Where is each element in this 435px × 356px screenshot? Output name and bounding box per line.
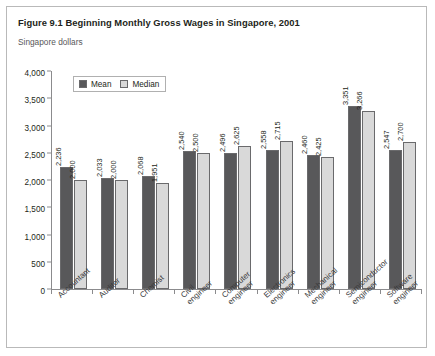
- bar-group: 2,0681,951: [140, 71, 173, 289]
- y-axis-tick-mark: [47, 207, 51, 208]
- x-axis-tick-mark: [380, 289, 381, 294]
- y-axis-tick-mark: [47, 261, 51, 262]
- y-axis-tick-label-text: 4,000: [25, 69, 46, 78]
- x-axis-tick-mark: [174, 289, 175, 294]
- bar-group: 2,0332,000: [99, 71, 132, 289]
- bar-mean: 2,558: [266, 150, 279, 289]
- bar-chart-plot-area: 05001,0001,5002,0002,5003,0003,5004,000 …: [51, 71, 421, 290]
- y-axis-tick-mark: [47, 125, 51, 126]
- bar-median: 2,700: [403, 142, 416, 289]
- bar-value-label: 2,033: [95, 159, 104, 178]
- bar-group: 3,3513,266: [346, 71, 379, 289]
- chart-legend: Mean Median: [73, 76, 166, 92]
- legend-item-mean: Mean: [79, 80, 111, 89]
- y-axis-tick-mark: [47, 98, 51, 99]
- bar-value-label: 2,460: [300, 135, 309, 154]
- page-title: Figure 9.1 Beginning Monthly Gross Wages…: [18, 17, 300, 28]
- figure-frame: Figure 9.1 Beginning Monthly Gross Wages…: [6, 6, 427, 348]
- bar-value-label: 2,625: [232, 126, 241, 145]
- y-axis-tick-label-text: 500: [31, 260, 45, 269]
- y-axis-tick-label-text: 3,500: [25, 96, 46, 105]
- y-axis-tick-mark: [47, 180, 51, 181]
- bar-mean: 2,236: [60, 167, 73, 289]
- bar-mean: 2,033: [101, 178, 114, 289]
- bar-mean: 3,351: [348, 106, 361, 289]
- bar-value-label: 3,351: [341, 87, 350, 106]
- axis-unit-label: Singapore dollars: [18, 37, 83, 47]
- x-axis-tick-mark: [133, 289, 134, 294]
- bar-group: 2,5582,715: [264, 71, 297, 289]
- y-axis-tick-label-text: 2,500: [25, 151, 46, 160]
- y-axis-line: [51, 71, 52, 290]
- x-axis-tick-mark: [339, 289, 340, 294]
- x-axis-tick-mark: [92, 289, 93, 294]
- bar-group: 2,4962,625: [222, 71, 255, 289]
- legend-item-median: Median: [120, 80, 159, 89]
- legend-label-median: Median: [132, 80, 159, 89]
- bar-value-label: 2,068: [136, 157, 145, 176]
- x-axis-tick-mark: [421, 289, 422, 294]
- bar-mean: 2,496: [224, 153, 237, 289]
- bar-value-label: 2,540: [177, 131, 186, 150]
- x-axis-tick-mark: [298, 289, 299, 294]
- x-axis-tick-mark: [215, 289, 216, 294]
- y-axis-tick-mark: [47, 152, 51, 153]
- y-axis-tick-label-text: 2,000: [25, 178, 46, 187]
- x-axis-tick-mark: [257, 289, 258, 294]
- bar-value-label: 2,496: [218, 133, 227, 152]
- bar-group: 2,5402,500: [181, 71, 214, 289]
- bar-value-label: 2,715: [273, 122, 282, 141]
- y-axis-tick-label-text: 0: [40, 287, 45, 296]
- bar-group: 2,5472,700: [387, 71, 420, 289]
- bar-value-label: 3,266: [355, 92, 364, 111]
- bar-value-label: 2,547: [382, 131, 391, 150]
- bar-value-label: 1,951: [150, 163, 159, 182]
- bar-mean: 2,068: [142, 176, 155, 289]
- bar-median: 2,500: [197, 153, 210, 289]
- bar-value-label: 2,236: [54, 148, 63, 167]
- bar-value-label: 2,000: [109, 161, 118, 180]
- bar-value-label: 2,558: [259, 130, 268, 149]
- bar-value-label: 2,425: [314, 137, 323, 156]
- bar-median: 3,266: [362, 111, 375, 289]
- bar-value-label: 2,500: [191, 133, 200, 152]
- y-axis-tick-label-text: 3,000: [25, 124, 46, 133]
- y-axis-tick-label-text: 1,500: [25, 205, 46, 214]
- legend-label-mean: Mean: [91, 80, 111, 89]
- bar-group: 2,2362,000: [58, 71, 91, 289]
- bar-value-label: 2,000: [68, 161, 77, 180]
- bar-median: 2,000: [115, 180, 128, 289]
- x-axis-tick-mark: [51, 289, 52, 294]
- y-axis-tick-mark: [47, 71, 51, 72]
- y-axis-tick-label-text: 1,000: [25, 233, 46, 242]
- legend-swatch-mean-icon: [79, 80, 87, 88]
- bar-mean: 2,460: [307, 155, 320, 289]
- bar-group: 2,4602,425: [305, 71, 338, 289]
- bar-value-label: 2,700: [396, 122, 405, 141]
- legend-swatch-median-icon: [120, 80, 128, 88]
- y-axis-tick-mark: [47, 234, 51, 235]
- bar-mean: 2,540: [183, 151, 196, 289]
- bar-median: 2,625: [238, 146, 251, 289]
